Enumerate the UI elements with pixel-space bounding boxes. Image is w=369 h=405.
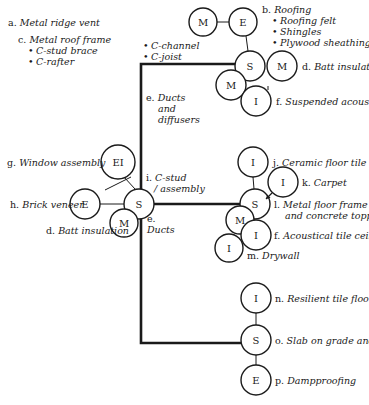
label-text: Roofing [274,4,311,15]
label-f-suspended-ceiling: f. Suspended acoustical tile ceiling [276,96,369,107]
label-text: Brick veneer [22,199,84,210]
node-code: I [254,230,258,241]
label-text: Dampproofing [287,375,356,386]
label-l-metal-floor-frame: l. Metal floor frame and steel deck and … [274,199,369,221]
label-letter: m. [247,250,259,261]
label-b-roofing: b. Roofing Roofing felt Shingles Plywood… [262,4,369,48]
label-text: Window assembly [19,157,105,168]
node-i-acoustical: I [241,220,271,250]
bullet-item: Roofing felt [272,15,369,26]
node-i-drywall: I [215,234,243,262]
label-letter: f. [274,230,280,241]
bullet-item: Plywood sheathing [272,37,369,48]
node-code: M [235,215,245,226]
node-ei-window: EI [101,145,135,179]
label-letter: p. [275,375,284,386]
node-code: M [277,61,287,72]
label-f-acoustical-tile-ceiling: f. Acoustical tile ceiling [274,230,369,241]
label-letter: f. [276,96,282,107]
node-s-slab: S [241,325,271,355]
label-text: Ducts [158,92,186,103]
label-text: Resilient tile flooring [287,293,369,304]
node-code: S [247,61,254,72]
label-letter: d. [46,225,55,236]
label-letter: k. [302,177,311,188]
label-text: Suspended acoustical tile ceiling [285,96,369,107]
node-e-damp: E [241,365,271,395]
label-text: Metal floor frame and steel deck [283,199,369,210]
node-code: S [253,335,260,346]
node-code: I [254,96,258,107]
label-m-drywall: m. Drywall [247,250,299,261]
label-text: Batt insulation [314,61,369,72]
node-code: S [252,199,259,210]
label-text: Ceramic floor tile [282,157,366,168]
node-code: M [198,17,208,28]
label-p-dampproofing: p. Dampproofing [275,375,356,386]
label-letter: i. [146,172,152,183]
label-c-items-right: C-channel C-joist [143,40,199,62]
bullet-item: C-stud brace [28,45,111,56]
node-code: S [136,199,143,210]
label-d-batt-insulation-left: d. Batt insulation [46,225,129,236]
label-g-window-assembly: g. Window assembly [7,157,105,168]
label-letter: l. [274,199,280,210]
connector-line [246,36,248,51]
label-text: diffusers [146,114,200,125]
label-letter: h. [10,199,19,210]
label-text: and concrete topping [274,210,369,221]
node-m-ridge: M [189,8,217,36]
node-code: EI [112,157,123,168]
label-text: Carpet [314,177,347,188]
connector-line [253,177,254,189]
connector-line [124,177,135,189]
slash-mark: / [154,183,157,194]
bullet-item: C-channel [143,40,199,51]
label-letter: a. [8,17,17,28]
label-text: Batt insulation [58,225,129,236]
bullet-item: Shingles [272,26,369,37]
label-text: Acoustical tile ceiling [283,230,369,241]
label-j-ceramic-floor-tile: j. Ceramic floor tile [273,157,366,168]
label-letter: g. [7,157,16,168]
node-m-batt-top: M [267,51,297,81]
bullet-item: C-rafter [28,56,111,67]
label-o-slab-on-grade: o. Slab on grade and concrete foundation [275,335,369,346]
label-text: Slab on grade and concrete foundation [287,335,369,346]
bullet-item: C-joist [143,51,199,62]
label-letter: c. [18,34,26,45]
node-code: I [251,157,255,168]
node-i-carpet: I [268,167,298,197]
label-h-brick-veneer: h. Brick veneer [10,199,84,210]
node-e-roof: E [229,8,257,36]
node-code: I [281,177,285,188]
node-code: M [226,80,236,91]
label-i-c-stud-assembly: i. C-stud / assembly [146,172,205,194]
label-text: Drywall [262,250,299,261]
node-i-resilient: I [241,283,271,313]
label-text: assembly [160,183,205,194]
label-a-metal-ridge-vent: a. Metal ridge vent [8,17,100,28]
label-text: Ducts [147,224,175,235]
node-i-susp: I [241,86,271,116]
label-letter: d. [302,61,311,72]
node-code: I [254,293,258,304]
label-c-metal-roof-frame: c. Metal roof frame C-stud brace C-rafte… [18,34,111,67]
label-text: Metal ridge vent [20,17,100,28]
label-text: Metal roof frame [29,34,111,45]
node-code: E [239,17,246,28]
label-e-ducts-and-diffusers: e. Ducts and diffusers [146,92,200,125]
label-text: and [146,103,200,114]
label-letter: b. [262,4,271,15]
node-i-ceramic: I [238,147,268,177]
label-letter: o. [275,335,284,346]
node-code: E [252,375,259,386]
label-text: C-stud [155,172,186,183]
label-letter: e. [146,92,155,103]
node-code: I [227,243,231,254]
label-e-ducts-floor: e. Ducts [147,213,175,235]
label-d-batt-insulation-top: d. Batt insulation [302,61,369,72]
label-letter: n. [275,293,284,304]
label-k-carpet: k. Carpet [302,177,347,188]
label-letter: e. [147,213,175,224]
